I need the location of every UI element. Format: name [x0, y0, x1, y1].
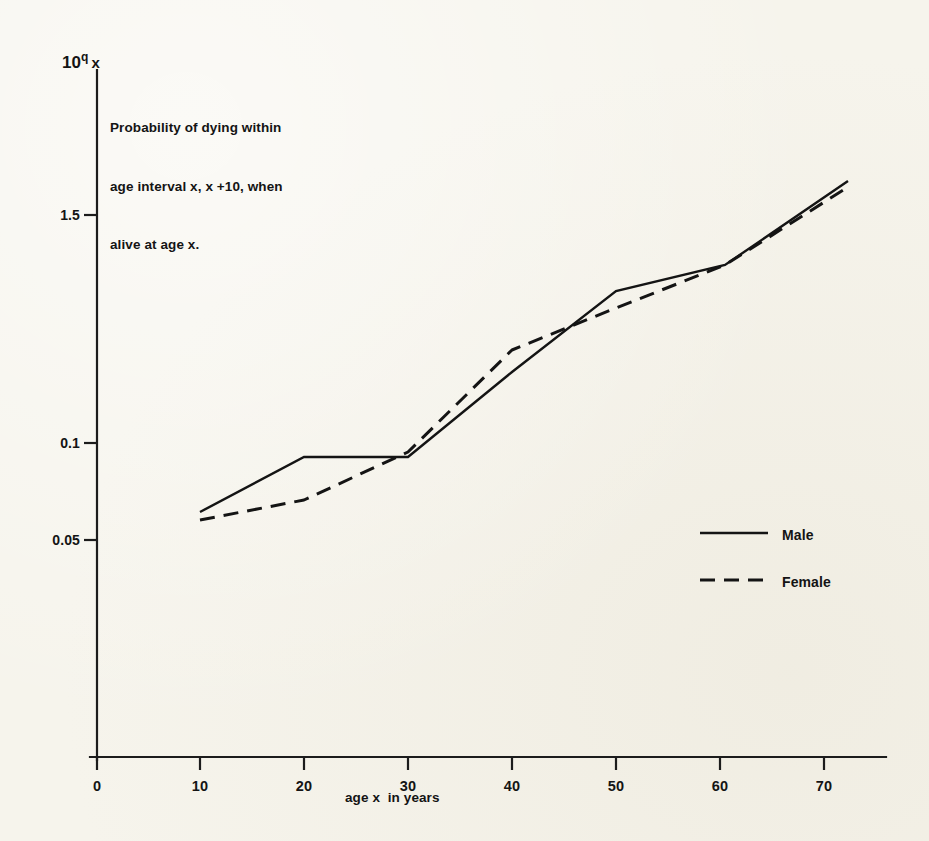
x-tick-marks: [97, 757, 824, 770]
caption-line-3: alive at age x.: [110, 235, 283, 255]
x-tick-label-70: 70: [804, 778, 844, 794]
x-tick-label-50: 50: [596, 778, 636, 794]
y-axis-title-variable: x: [92, 54, 100, 71]
x-tick-label-20: 20: [284, 778, 324, 794]
y-tick-label-0_1: 0.1: [30, 435, 80, 451]
y-tick-label-1_5: 1.5: [30, 207, 80, 223]
figure-page: 10qx Probability of dying within age int…: [0, 0, 929, 841]
y-tick-marks: [84, 215, 97, 540]
series-line-male: [200, 181, 848, 512]
legend-label-male: Male: [782, 527, 814, 543]
caption-line-1: Probability of dying within: [110, 118, 283, 138]
x-tick-label-0: 0: [77, 778, 117, 794]
caption-line-2: age interval x, x +10, when: [110, 177, 283, 197]
x-tick-label-40: 40: [492, 778, 532, 794]
x-axis-title: age x in years: [345, 790, 440, 805]
series-line-female: [200, 187, 848, 520]
chart-caption: Probability of dying within age interval…: [110, 79, 283, 294]
x-tick-label-60: 60: [700, 778, 740, 794]
y-axis-title: 10qx: [62, 50, 100, 73]
y-axis-title-superscript: q: [81, 50, 88, 64]
x-tick-label-10: 10: [180, 778, 220, 794]
y-axis-title-base: 10: [62, 53, 81, 72]
y-tick-label-0_05: 0.05: [20, 532, 80, 548]
legend-label-female: Female: [782, 574, 831, 590]
